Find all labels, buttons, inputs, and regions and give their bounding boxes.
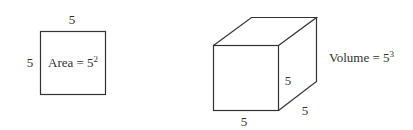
square-left-label: 5: [27, 55, 34, 70]
area-formula-base: Area = 5: [48, 55, 94, 70]
area-formula-exponent: 2: [94, 54, 99, 64]
cube-bottom-label: 5: [241, 114, 248, 129]
cube-figure: [214, 18, 317, 111]
volume-formula-exponent: 3: [390, 49, 395, 59]
area-formula: Area = 52: [48, 54, 98, 70]
diagram-canvas: 5 5 Area = 52 5 5 5 Volume = 53: [0, 0, 413, 130]
cube-front-face: [214, 46, 279, 111]
cube-depth-label: 5: [302, 103, 309, 118]
cube-height-label: 5: [285, 73, 292, 88]
cube-labels: 5 5 5 Volume = 53: [241, 49, 395, 129]
square-figure: 5 5 Area = 52: [27, 12, 106, 95]
square-top-label: 5: [69, 12, 76, 27]
volume-formula-base: Volume = 5: [329, 50, 390, 65]
cube-top-face: [214, 18, 317, 46]
volume-formula: Volume = 53: [329, 49, 395, 65]
